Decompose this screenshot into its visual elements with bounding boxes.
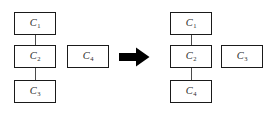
- right-node-c3-label: C3: [237, 51, 247, 62]
- left-node-c4[interactable]: C4: [67, 45, 109, 68]
- right-arrow-icon: [119, 47, 150, 67]
- left-node-c1-label: C1: [30, 18, 40, 29]
- right-node-c2-label: C2: [186, 51, 196, 62]
- right-node-c2[interactable]: C2: [170, 45, 212, 68]
- right-node-c3[interactable]: C3: [221, 45, 263, 68]
- left-node-c3[interactable]: C3: [14, 80, 56, 103]
- left-node-c2-label: C2: [30, 51, 40, 62]
- left-node-c1[interactable]: C1: [14, 12, 56, 35]
- diagram-canvas: C1 C2 C3 C4 C1 C2 C4 C3: [0, 0, 264, 115]
- left-node-c2[interactable]: C2: [14, 45, 56, 68]
- right-node-c4[interactable]: C4: [170, 80, 212, 103]
- right-node-c4-label: C4: [186, 86, 196, 97]
- right-node-c1-label: C1: [186, 18, 196, 29]
- right-node-c1[interactable]: C1: [170, 12, 212, 35]
- left-node-c3-label: C3: [30, 86, 40, 97]
- left-node-c4-label: C4: [83, 51, 93, 62]
